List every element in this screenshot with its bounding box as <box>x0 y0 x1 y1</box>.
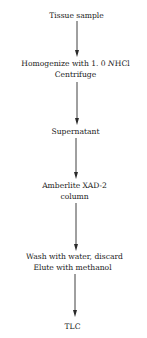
node-label: TLC <box>0 321 146 332</box>
node-label: Tissue sample <box>3 10 147 21</box>
node-label-line1: Wash with water, discard <box>1 251 147 262</box>
node-label-line1: Homogenize with 1. 0 NHCl <box>2 58 147 69</box>
node-label: Supernatant <box>2 126 147 137</box>
node-label-line2: Centrifuge <box>2 69 147 80</box>
node-tissue-sample: Tissue sample <box>3 10 147 21</box>
flow-arrows <box>0 0 147 338</box>
node-label-line2: column <box>1 191 147 202</box>
node-label-line2: Elute with methanol <box>0 262 147 273</box>
node-supernatant: Supernatant <box>2 126 147 137</box>
node-homogenize: Homogenize with 1. 0 NHCl Centrifuge <box>2 58 147 80</box>
arrowhead-4 <box>74 244 78 251</box>
node-wash-elute: Wash with water, discard Elute with meth… <box>1 251 147 273</box>
node-amberlite-column: Amberlite XAD-2 column <box>1 180 147 202</box>
node-tlc: TLC <box>0 321 146 332</box>
node-label-line1: Amberlite XAD-2 <box>1 180 147 191</box>
arrowhead-1 <box>75 50 79 57</box>
arrowhead-5 <box>73 310 77 317</box>
arrowhead-3 <box>74 172 78 179</box>
arrowhead-2 <box>75 118 79 125</box>
